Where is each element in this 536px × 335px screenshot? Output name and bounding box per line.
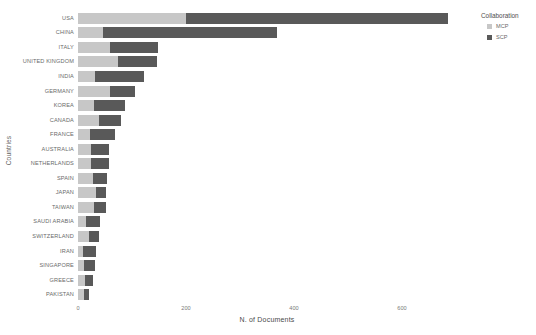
bar-segment-mcp <box>78 173 93 184</box>
bar-segment-mcp <box>78 27 103 38</box>
bar-row <box>78 56 456 67</box>
bar-row <box>78 115 456 126</box>
legend-title: Collaboration <box>481 12 535 19</box>
y-tick-label: CANADA <box>10 115 74 126</box>
bar-row <box>78 216 456 227</box>
legend-label: MCP <box>496 23 508 29</box>
bar-row <box>78 42 456 53</box>
y-axis-tick-labels: USACHINAITALYUNITED KINGDOMINDIAGERMANYK… <box>8 11 74 302</box>
bar-row <box>78 260 456 271</box>
bar-segment-scp <box>91 158 109 169</box>
bar-segment-scp <box>85 275 93 286</box>
stacked-bar-chart: Countries USACHINAITALYUNITED KINGDOMIND… <box>0 0 536 335</box>
y-tick-label: NETHERLANDS <box>10 158 74 169</box>
bar-segment-mcp <box>78 42 110 53</box>
bar-segment-scp <box>96 187 106 198</box>
y-tick-label: SWITZERLAND <box>10 231 74 242</box>
bar-segment-scp <box>91 144 109 155</box>
bar-row <box>78 173 456 184</box>
bar-row <box>78 158 456 169</box>
bar-segment-mcp <box>78 275 85 286</box>
legend-item[interactable]: SCP <box>487 34 535 40</box>
bar-row <box>78 187 456 198</box>
bar-segment-mcp <box>78 86 110 97</box>
bar-segment-scp <box>89 231 99 242</box>
bar-segment-mcp <box>78 158 91 169</box>
y-tick-label: GERMANY <box>10 86 74 97</box>
bar-segment-scp <box>110 42 158 53</box>
y-tick-label: SAUDI ARABIA <box>10 216 74 227</box>
bar-row <box>78 100 456 111</box>
legend-items: MCPSCP <box>481 23 535 40</box>
plot-area <box>78 11 456 302</box>
bar-segment-mcp <box>78 129 90 140</box>
bar-row <box>78 86 456 97</box>
y-tick-label: ITALY <box>10 42 74 53</box>
y-tick-label: SPAIN <box>10 173 74 184</box>
bar-segment-mcp <box>78 216 86 227</box>
bar-row <box>78 129 456 140</box>
bar-segment-scp <box>186 13 448 24</box>
bar-row <box>78 13 456 24</box>
bar-row <box>78 275 456 286</box>
bar-segment-mcp <box>78 71 95 82</box>
y-tick-label: AUSTRALIA <box>10 144 74 155</box>
bar-row <box>78 144 456 155</box>
y-tick-label: IRAN <box>10 246 74 257</box>
bar-segment-mcp <box>78 187 96 198</box>
bar-segment-scp <box>118 56 157 67</box>
legend-swatch <box>487 24 492 29</box>
bar-segment-mcp <box>78 100 94 111</box>
y-tick-label: SINGAPORE <box>10 260 74 271</box>
bar-segment-mcp <box>78 56 118 67</box>
x-tick-label: 600 <box>397 305 406 311</box>
bar-segment-mcp <box>78 202 94 213</box>
bar-segment-scp <box>103 27 277 38</box>
x-tick-label: 0 <box>76 305 79 311</box>
y-tick-label: CHINA <box>10 27 74 38</box>
y-tick-label: UNITED KINGDOM <box>10 56 74 67</box>
bar-segment-mcp <box>78 144 91 155</box>
y-tick-label: PAKISTAN <box>10 289 74 300</box>
bar-row <box>78 27 456 38</box>
legend: Collaboration MCPSCP <box>481 12 535 45</box>
bar-row <box>78 71 456 82</box>
y-tick-label: KOREA <box>10 100 74 111</box>
bar-segment-scp <box>94 100 125 111</box>
bar-segment-scp <box>86 216 100 227</box>
y-tick-label: GREECE <box>10 275 74 286</box>
bar-segment-scp <box>84 289 89 300</box>
bar-segment-scp <box>99 115 121 126</box>
y-tick-label: INDIA <box>10 71 74 82</box>
y-tick-label: USA <box>10 13 74 24</box>
bar-row <box>78 289 456 300</box>
x-axis-title: N. of Documents <box>78 316 456 323</box>
x-tick-label: 400 <box>289 305 298 311</box>
bar-row <box>78 246 456 257</box>
legend-item[interactable]: MCP <box>487 23 535 29</box>
legend-label: SCP <box>496 34 508 40</box>
y-tick-label: FRANCE <box>10 129 74 140</box>
bar-segment-mcp <box>78 115 99 126</box>
bar-segment-scp <box>110 86 135 97</box>
bar-segment-scp <box>90 129 115 140</box>
y-tick-label: TAIWAN <box>10 202 74 213</box>
y-tick-label: JAPAN <box>10 187 74 198</box>
bar-segment-scp <box>84 260 94 271</box>
x-tick-label: 200 <box>181 305 190 311</box>
bar-segment-scp <box>95 71 144 82</box>
bar-segment-scp <box>94 202 105 213</box>
bar-segment-mcp <box>78 13 186 24</box>
bar-segment-mcp <box>78 231 89 242</box>
bar-segment-scp <box>93 173 107 184</box>
bar-row <box>78 231 456 242</box>
bar-row <box>78 202 456 213</box>
bar-segment-scp <box>83 246 97 257</box>
legend-swatch <box>487 35 492 40</box>
